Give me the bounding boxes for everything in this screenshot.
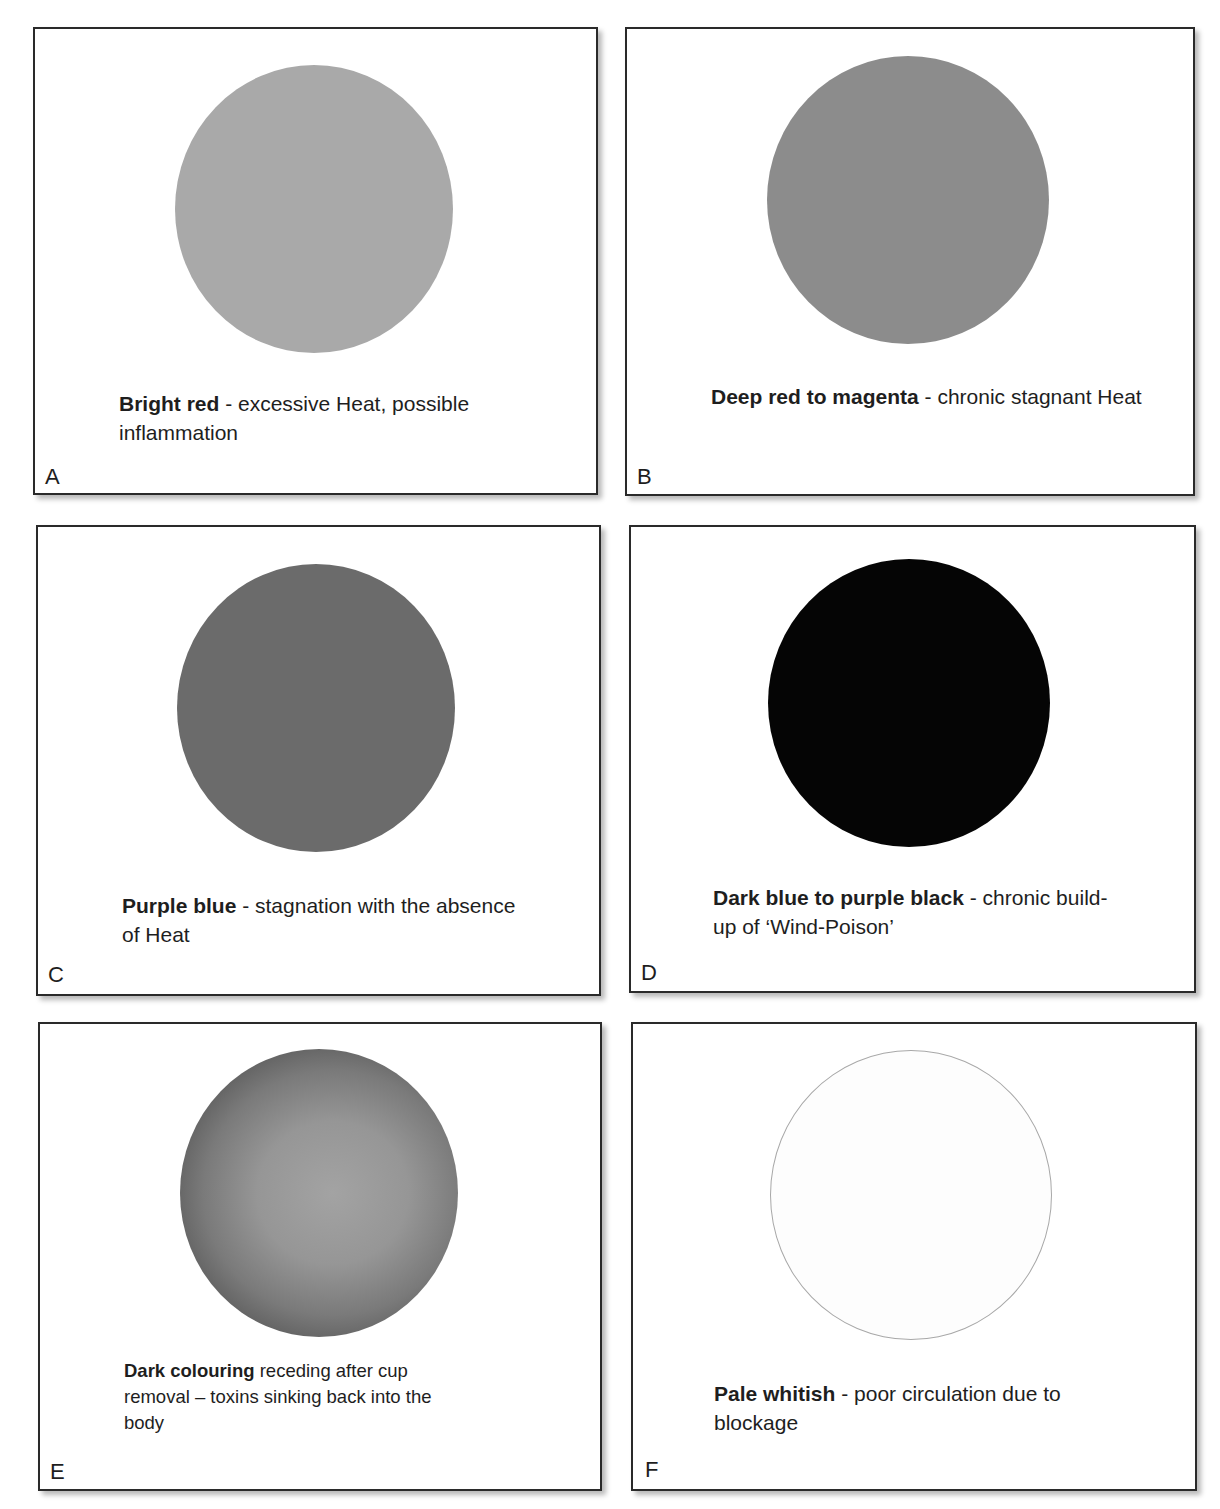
cup-mark-dark-colouring-receding: [180, 1049, 458, 1337]
cup-mark-pale-whitish: [770, 1050, 1052, 1340]
panel-c: Purple blue - stagnation with the absenc…: [36, 525, 601, 996]
caption-e-title: Dark colouring: [124, 1360, 255, 1381]
panel-d: Dark blue to purple black - chronic buil…: [629, 525, 1196, 993]
caption-d-title: Dark blue to purple black: [713, 886, 964, 909]
caption-b: Deep red to magenta - chronic stagnant H…: [711, 382, 1151, 411]
caption-a: Bright red - excessive Heat, possible in…: [119, 389, 539, 447]
panel-a: Bright red - excessive Heat, possible in…: [33, 27, 598, 495]
caption-a-title: Bright red: [119, 392, 219, 415]
panel-label-f: F: [645, 1459, 658, 1481]
panel-e: Dark colouring receding after cup remova…: [38, 1022, 602, 1491]
cup-mark-bright-red: [175, 65, 453, 353]
panel-b: Deep red to magenta - chronic stagnant H…: [625, 27, 1195, 496]
panel-label-d: D: [641, 962, 657, 984]
panel-label-c: C: [48, 964, 64, 986]
caption-e: Dark colouring receding after cup remova…: [124, 1358, 444, 1436]
caption-f-title: Pale whitish: [714, 1382, 835, 1405]
caption-c: Purple blue - stagnation with the absenc…: [122, 891, 522, 949]
cup-mark-dark-blue-purple-black: [768, 559, 1050, 847]
caption-d-separator: -: [964, 886, 983, 909]
caption-f: Pale whitish - poor circulation due to b…: [714, 1379, 1134, 1437]
caption-b-title: Deep red to magenta: [711, 385, 919, 408]
panel-label-e: E: [50, 1461, 65, 1483]
caption-b-description: chronic stagnant Heat: [937, 385, 1141, 408]
panel-f: Pale whitish - poor circulation due to b…: [631, 1022, 1197, 1491]
cup-mark-purple-blue: [177, 564, 455, 852]
panel-label-b: B: [637, 466, 652, 488]
caption-f-separator: -: [835, 1382, 854, 1405]
cup-mark-deep-red-magenta: [767, 56, 1049, 344]
panel-label-a: A: [45, 466, 60, 488]
caption-c-title: Purple blue: [122, 894, 236, 917]
caption-d: Dark blue to purple black - chronic buil…: [713, 883, 1113, 941]
caption-b-separator: -: [919, 385, 938, 408]
caption-c-separator: -: [236, 894, 255, 917]
caption-a-separator: -: [219, 392, 238, 415]
